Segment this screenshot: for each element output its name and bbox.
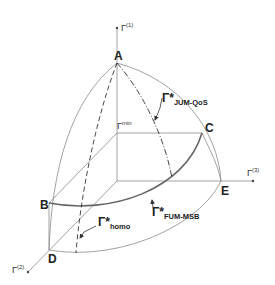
gamma1-axis-label: Γ(1) bbox=[121, 22, 133, 33]
jum-qos-curve-label: Γ*JUM-QoS bbox=[162, 92, 208, 107]
arrow-homo bbox=[80, 226, 96, 238]
gamma-min-label: Γmin bbox=[117, 120, 132, 131]
point-d-label: D bbox=[48, 253, 57, 265]
homo-curve-label: Γ*homo bbox=[98, 216, 130, 231]
arrow-jum-qos bbox=[155, 98, 162, 120]
diagram-drawing bbox=[0, 0, 275, 285]
gamma2-axis-label: Γ(2) bbox=[12, 264, 24, 275]
fum-msb-curve-label: Γ*FUM-MSB bbox=[152, 206, 199, 221]
curve-fum-msb bbox=[49, 133, 202, 206]
point-e-label: E bbox=[221, 185, 229, 197]
point-a-label: A bbox=[114, 50, 123, 62]
gamma3-axis-label: Γ(3) bbox=[247, 167, 259, 178]
diagram-canvas: A C B E D Γ(1) Γ(3) Γ(2) Γmin Γ*JUM-QoS … bbox=[0, 0, 275, 285]
point-c-label: C bbox=[205, 122, 214, 134]
point-b-label: B bbox=[40, 199, 49, 211]
